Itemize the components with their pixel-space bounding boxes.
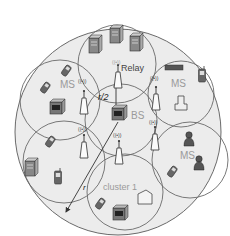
server-icon [110, 25, 123, 43]
pc-icon [50, 99, 65, 114]
network-diagram: ((•)) Relay MS ((•)) r/2 MS ((•)) BS ((•… [0, 0, 230, 236]
half-radius-label: r/2 [98, 92, 109, 102]
signal-icon: ((•)) [78, 126, 87, 132]
signal-icon: ((•)) [112, 59, 121, 65]
pc-icon [113, 205, 128, 220]
ms-right-top-label: MS [171, 78, 186, 89]
bs-label: BS [131, 110, 145, 121]
server-icon [25, 158, 38, 176]
server-icon [89, 35, 102, 53]
radius-label: r [83, 183, 86, 192]
ms-left-label: MS [60, 79, 75, 90]
cluster-1-label: cluster 1 [103, 182, 137, 192]
signal-icon: ((•)) [78, 78, 87, 84]
signal-icon: ((•)) [149, 119, 158, 125]
router-icon [165, 65, 183, 70]
signal-icon: ((•)) [113, 132, 122, 138]
ms-right-bottom-label: MS [180, 150, 195, 161]
base-station-icon [112, 105, 127, 120]
relay-label: Relay [121, 63, 145, 73]
server-icon [130, 33, 143, 51]
signal-icon: ((•)) [150, 75, 159, 81]
